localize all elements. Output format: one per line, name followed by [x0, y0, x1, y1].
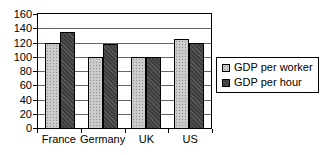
bar-gdp-per-hour — [60, 32, 75, 128]
bar-gdp-per-worker — [131, 57, 146, 128]
x-axis-tick — [37, 129, 38, 133]
y-axis-tick — [33, 114, 37, 115]
x-axis-tick — [81, 129, 82, 133]
plot-area — [37, 13, 212, 129]
bar-gdp-per-worker — [45, 43, 60, 129]
y-axis-label: 80 — [0, 66, 32, 77]
x-axis-tick — [168, 129, 169, 133]
x-axis-label: US — [182, 133, 197, 145]
bar-group — [168, 14, 211, 128]
x-axis-label: UK — [139, 133, 154, 145]
y-axis-tick — [33, 85, 37, 86]
bar-gdp-per-hour — [103, 44, 118, 128]
y-axis-label: 60 — [0, 80, 32, 91]
bar-gdp-per-hour — [146, 57, 161, 128]
y-axis-tick — [33, 28, 37, 29]
x-axis-tick — [212, 129, 213, 133]
bar-groups — [38, 14, 211, 128]
y-axis-label: 40 — [0, 94, 32, 105]
y-axis-tick — [33, 71, 37, 72]
y-axis-tick — [33, 57, 37, 58]
y-axis-tick — [33, 43, 37, 44]
y-axis-label: 120 — [0, 37, 32, 48]
legend-label: GDP per hour — [234, 76, 302, 89]
y-axis-label: 100 — [0, 51, 32, 62]
y-axis-label: 20 — [0, 108, 32, 119]
legend: GDP per workerGDP per hour — [216, 57, 319, 93]
legend-item: GDP per worker — [222, 61, 313, 74]
bar-group — [38, 14, 81, 128]
y-axis-label: 0 — [0, 123, 32, 134]
y-axis-label: 140 — [0, 23, 32, 34]
x-axis-label: Germany — [80, 133, 125, 145]
bar-gdp-per-hour — [189, 43, 204, 129]
y-axis-label: 160 — [0, 9, 32, 20]
bar-gdp-per-worker — [174, 39, 189, 128]
bar-chart: 020406080100120140160 FranceGermanyUKUS … — [0, 0, 325, 155]
legend-label: GDP per worker — [234, 61, 313, 74]
bar-gdp-per-worker — [88, 57, 103, 128]
y-axis-tick — [33, 100, 37, 101]
legend-swatch-dark — [222, 79, 230, 87]
legend-item: GDP per hour — [222, 76, 313, 89]
x-axis-label: France — [42, 133, 76, 145]
bar-group — [81, 14, 124, 128]
x-axis-tick — [125, 129, 126, 133]
legend-swatch-light — [222, 64, 230, 72]
bar-group — [125, 14, 168, 128]
y-axis-tick — [33, 14, 37, 15]
